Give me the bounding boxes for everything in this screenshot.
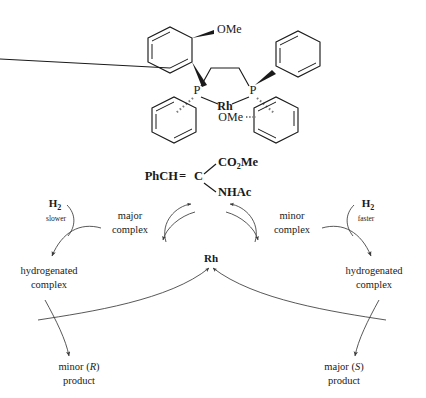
minor-complex-line1: minor [279, 210, 305, 221]
arrow-to-minor-product [45, 300, 69, 356]
substrate-double-bond: = [179, 169, 186, 183]
rhodium-cycle-label: Rh [204, 252, 218, 264]
substrate-ester-group: CO2Me [218, 155, 259, 171]
major-product-line1: major (S) [324, 361, 364, 373]
node-rhodium-catalyst: Rh [204, 252, 218, 264]
arrow-to-major-product [355, 300, 379, 356]
substrate-amide-group: NHAc [218, 185, 252, 199]
minor-complex-line2: complex [274, 224, 311, 235]
arrow-substrate-minor-complex [226, 204, 258, 242]
node-hydrogenated-complex-left: hydrogenated complex [20, 265, 78, 290]
hydrogenated-right-line2: complex [356, 279, 393, 290]
node-major-product: major (S) product [324, 361, 364, 386]
arrow-major-to-hydrogenated [52, 226, 101, 256]
rate-label-left: slower [46, 214, 66, 223]
h2-label-left: H2 [49, 197, 62, 212]
minor-product-line1: minor (R) [58, 361, 100, 373]
hydrogenated-right-line1: hydrogenated [345, 265, 403, 276]
major-complex-line2: complex [112, 224, 149, 235]
reagent-h2-left: H2 slower [46, 197, 74, 236]
h2-label-right: H2 [362, 197, 375, 212]
node-hydrogenated-complex-right: hydrogenated complex [345, 265, 403, 290]
rate-label-right: faster [358, 214, 375, 223]
substrate-formula: PhCH = C CO2Me NHAc [145, 155, 259, 199]
substrate-central-atom: C [194, 169, 203, 183]
arrow-minor-to-hydrogenated [322, 226, 371, 256]
node-major-complex: major complex [112, 210, 149, 235]
major-complex-line1: major [118, 210, 143, 221]
catalytic-cycle: PhCH = C CO2Me NHAc major complex [0, 0, 426, 398]
hydrogenated-left-line1: hydrogenated [20, 265, 78, 276]
major-product-line2: product [328, 375, 360, 386]
substrate-left-fragment: PhCH [145, 169, 179, 183]
arrow-substrate-major-complex [163, 204, 195, 242]
node-minor-complex: minor complex [274, 210, 311, 235]
node-minor-product: minor (R) product [58, 361, 100, 386]
svg-text:PhCH: PhCH [145, 169, 179, 183]
hydrogenated-left-line2: complex [31, 279, 68, 290]
minor-product-line2: product [63, 375, 95, 386]
figure-canvas: OMe P P Rh [0, 0, 426, 398]
reagent-h2-right: H2 faster [347, 197, 375, 236]
